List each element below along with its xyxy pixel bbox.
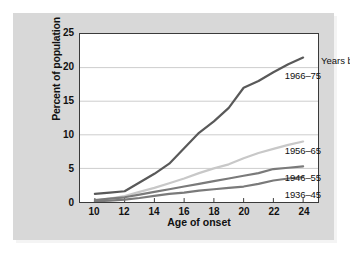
series-label-1936-45: 1936–45 — [285, 190, 321, 200]
series-label-1956-65: 1956–65 — [285, 146, 321, 156]
y-axis-label: Percent of population — [50, 0, 62, 144]
plot-area — [79, 33, 319, 203]
y-tick-label: 20 — [44, 62, 74, 72]
y-tick-label: 5 — [44, 164, 74, 174]
y-tick-label: 0 — [44, 198, 74, 208]
series-line-1956-65 — [95, 142, 303, 201]
x-axis-label: Age of onset — [79, 216, 319, 228]
figure-panel: Percent of population 0510152025 1012141… — [13, 13, 334, 240]
y-tick-label: 10 — [44, 130, 74, 140]
y-tick-label: 15 — [44, 96, 74, 106]
series-label-1946-55: 1946–55 — [285, 173, 321, 183]
y-tick-label: 25 — [44, 28, 74, 38]
series-label-1966-75: 1966–75 — [285, 71, 321, 81]
series-lines — [80, 34, 318, 202]
